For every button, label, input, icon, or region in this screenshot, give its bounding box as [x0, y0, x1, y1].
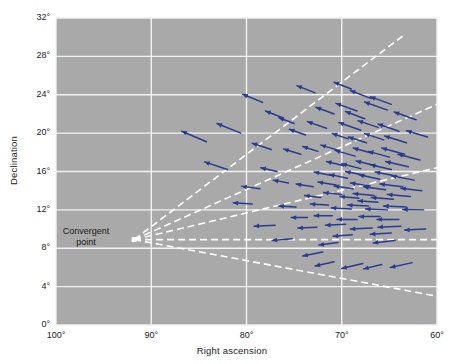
proper-motion-chart: Declination Right ascension 0°4°8°12°16°… [0, 0, 464, 364]
plot-canvas [0, 0, 464, 364]
x-tick-label: 70° [322, 330, 362, 340]
x-tick-label: 60° [417, 330, 457, 340]
y-tick-label: 12° [18, 204, 50, 214]
y-axis-label: Declination [8, 106, 19, 216]
y-tick-label: 4° [18, 281, 50, 291]
convergent-point-square [132, 237, 137, 242]
y-tick-label: 24° [18, 89, 50, 99]
y-tick-label: 20° [18, 127, 50, 137]
convergent-point-label-line2: point [46, 237, 126, 248]
y-axis-label-wrap: Declination [0, 0, 26, 325]
x-tick-label: 80° [227, 330, 267, 340]
x-axis-label: Right ascension [0, 345, 464, 356]
convergent-point-label: Convergent point [46, 226, 126, 248]
y-tick-label: 0° [18, 319, 50, 329]
x-tick-label: 90° [131, 330, 171, 340]
convergent-point-label-line1: Convergent [46, 226, 126, 237]
y-tick-label: 28° [18, 50, 50, 60]
convergent-point-marker [132, 237, 137, 242]
y-tick-label: 16° [18, 166, 50, 176]
y-tick-label: 32° [18, 12, 50, 22]
x-tick-label: 100° [36, 330, 76, 340]
